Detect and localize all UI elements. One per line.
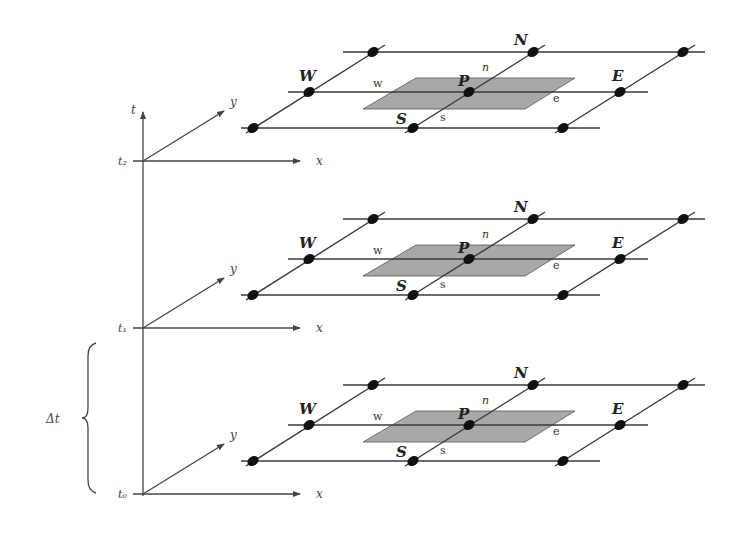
label-east: E bbox=[611, 234, 624, 252]
label-south: S bbox=[396, 110, 407, 128]
node-south bbox=[406, 288, 421, 302]
time-axis-label: t bbox=[131, 103, 136, 117]
x-axis-label: x bbox=[316, 154, 323, 168]
y-axis-label: y bbox=[229, 95, 237, 109]
axes-t0: x y t₀ bbox=[118, 428, 323, 501]
face-north: n bbox=[482, 61, 489, 74]
delta-t-brace bbox=[82, 343, 96, 493]
label-west: W bbox=[299, 234, 318, 252]
finite-volume-time-diagram: t Δt x y t₂ N W P E S n w e bbox=[0, 0, 749, 534]
node-north bbox=[526, 212, 541, 226]
node bbox=[366, 45, 381, 59]
node bbox=[676, 212, 691, 226]
face-south: s bbox=[440, 444, 446, 457]
y-axis-label: y bbox=[229, 262, 237, 276]
y-axis bbox=[143, 111, 224, 161]
face-west: w bbox=[373, 410, 383, 423]
x-axis-label: x bbox=[316, 487, 323, 501]
time-level-label: t₁ bbox=[118, 322, 127, 335]
face-north: n bbox=[482, 228, 489, 241]
node-south bbox=[406, 454, 421, 468]
node bbox=[556, 288, 571, 302]
face-south: s bbox=[440, 278, 446, 291]
node-east bbox=[613, 418, 628, 432]
node bbox=[366, 378, 381, 392]
layer-t0: x y t₀ N W P E S n w e s bbox=[118, 364, 705, 501]
node bbox=[366, 212, 381, 226]
layer-t2: x y t₂ N W P E S n w e s bbox=[118, 31, 705, 168]
time-level-label: t₀ bbox=[118, 488, 127, 501]
y-axis bbox=[143, 278, 224, 328]
node bbox=[676, 378, 691, 392]
y-axis bbox=[143, 444, 224, 494]
label-center: P bbox=[457, 239, 470, 257]
face-east: e bbox=[553, 259, 560, 272]
node bbox=[246, 121, 261, 135]
face-west: w bbox=[373, 244, 383, 257]
delta-t-label: Δt bbox=[45, 412, 60, 426]
node-north bbox=[526, 45, 541, 59]
node bbox=[246, 288, 261, 302]
label-west: W bbox=[299, 67, 318, 85]
face-east: e bbox=[553, 92, 560, 105]
label-east: E bbox=[611, 67, 624, 85]
time-level-label: t₂ bbox=[118, 155, 127, 168]
label-south: S bbox=[396, 277, 407, 295]
grid-line-west bbox=[246, 45, 385, 133]
layer-t1: x y t₁ N W P E S n w e s bbox=[118, 198, 705, 335]
axes-t2: x y t₂ bbox=[118, 95, 323, 168]
node bbox=[556, 121, 571, 135]
face-south: s bbox=[440, 111, 446, 124]
label-north: N bbox=[513, 364, 529, 382]
label-center: P bbox=[457, 72, 470, 90]
axes-t1: x y t₁ bbox=[118, 262, 323, 335]
grid-line-west bbox=[246, 212, 385, 300]
node bbox=[246, 454, 261, 468]
label-south: S bbox=[396, 443, 407, 461]
label-east: E bbox=[611, 400, 624, 418]
face-east: e bbox=[553, 425, 560, 438]
label-north: N bbox=[513, 198, 529, 216]
x-axis-label: x bbox=[316, 321, 323, 335]
y-axis-label: y bbox=[229, 428, 237, 442]
face-north: n bbox=[482, 394, 489, 407]
node-east bbox=[613, 252, 628, 266]
label-west: W bbox=[299, 400, 318, 418]
grid-line-west bbox=[246, 378, 385, 466]
node bbox=[556, 454, 571, 468]
node-south bbox=[406, 121, 421, 135]
node-east bbox=[613, 85, 628, 99]
label-north: N bbox=[513, 31, 529, 49]
label-center: P bbox=[457, 405, 470, 423]
node-north bbox=[526, 378, 541, 392]
node bbox=[676, 45, 691, 59]
face-west: w bbox=[373, 77, 383, 90]
